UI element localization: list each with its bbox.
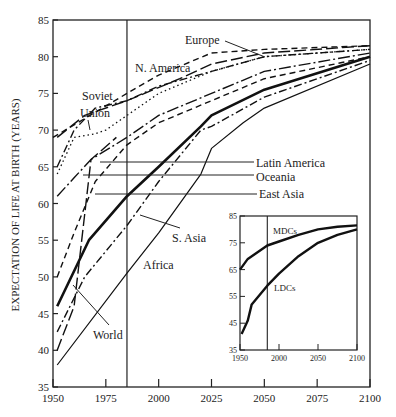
inset-y-tick-label: 55 [229, 292, 237, 301]
inset-x-tick-label: 2050 [310, 354, 326, 363]
y-tick-label: 50 [38, 271, 50, 283]
inset-label-mdcs: MDCs [273, 226, 298, 236]
series-label: Union [80, 106, 110, 120]
y-tick-label: 65 [38, 161, 50, 173]
inset-x-tick-label: 2000 [271, 354, 287, 363]
inset-y-tick-label: 85 [229, 212, 237, 221]
y-tick-label: 45 [38, 308, 50, 320]
y-tick-label: 40 [38, 344, 50, 356]
inset-frame [240, 216, 357, 350]
inset-label-ldcs: LDCs [274, 283, 296, 293]
series-label: S. Asia [172, 231, 207, 245]
inset-chart: 3545556575851950200020502100MDCsLDCs [229, 212, 365, 363]
life-expectancy-chart: 3540455055606570758085195019752000202520… [0, 0, 396, 417]
series-label: Africa [143, 258, 174, 272]
series-label: East Asia [259, 187, 305, 201]
x-tick-label: 2025 [201, 392, 224, 404]
inset-y-tick-label: 65 [229, 266, 237, 275]
series-label: Oceania [256, 170, 296, 184]
x-tick-label: 1975 [95, 392, 118, 404]
series-label: Europe [185, 33, 220, 47]
inset-x-tick-label: 2100 [349, 354, 365, 363]
y-tick-label: 80 [38, 51, 50, 63]
x-tick-label: 2100 [359, 392, 382, 404]
series-label: Latin America [256, 156, 326, 170]
series-label: World [93, 328, 123, 342]
y-tick-label: 85 [38, 14, 50, 26]
series-label: Soviet [82, 89, 113, 103]
y-tick-label: 55 [38, 234, 50, 246]
inset-y-tick-label: 45 [229, 319, 237, 328]
y-tick-label: 75 [38, 87, 50, 99]
series-label: N. America [135, 61, 191, 75]
inset-x-tick-label: 1950 [232, 354, 248, 363]
inset-y-tick-label: 75 [229, 239, 237, 248]
x-tick-label: 2050 [253, 392, 276, 404]
x-tick-label: 2075 [306, 392, 329, 404]
y-tick-label: 70 [38, 124, 50, 136]
x-tick-label: 2000 [148, 392, 171, 404]
y-tick-label: 60 [38, 198, 50, 210]
x-tick-label: 1950 [42, 392, 65, 404]
y-axis-label: EXPECTATION OF LIFE AT BIRTH (YEARS) [9, 98, 22, 311]
